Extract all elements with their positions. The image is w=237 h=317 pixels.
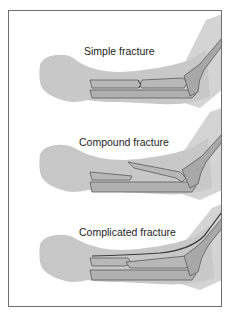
panel-simple-fracture	[39, 14, 222, 108]
ulna-bone	[90, 182, 196, 192]
panel-complicated-fracture	[39, 204, 222, 290]
label-complicated-fracture: Complicated fracture	[79, 226, 176, 238]
panel-compound-fracture	[39, 108, 222, 200]
label-compound-fracture: Compound fracture	[79, 136, 169, 148]
ulna-bone	[90, 270, 196, 280]
ulna-bone	[90, 90, 196, 98]
label-simple-fracture: Simple fracture	[84, 45, 155, 57]
